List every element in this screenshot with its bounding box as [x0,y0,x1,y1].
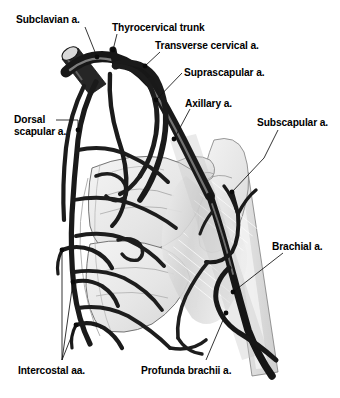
dot-suprascapular [154,98,159,103]
label-suprascapular-artery: Suprascapular a. [184,67,265,79]
label-axillary-artery: Axillary a. [185,98,232,110]
dot-intercostal-3 [74,323,79,328]
dot-profunda-brachii [224,311,229,316]
dot-brachial [231,290,236,295]
dot-transverse-cervical [143,64,148,69]
dot-axillary [172,137,177,142]
label-subclavian-artery: Subclavian a. [16,14,80,26]
leader-transverse-cervical [145,52,160,66]
label-transverse-cervical-artery: Transverse cervical a. [155,40,259,52]
dot-subclavian [95,55,100,60]
label-brachial-artery: Brachial a. [272,241,322,253]
dot-subscapular [230,190,235,195]
label-thyrocervical-trunk: Thyrocervical trunk [112,22,205,34]
anatomy-illustration [0,0,340,398]
label-intercostal-arteries: Intercostal aa. [18,365,85,377]
label-subscapular-artery: Subscapular a. [257,117,328,129]
dot-intercostal-2 [71,280,76,285]
label-dorsal-scapular-artery: Dorsal scapular a. [14,114,66,137]
dot-thyrocervical-trunk [111,48,116,53]
dot-dorsal-scapular [76,128,81,133]
anatomy-figure: Subclavian a. Thyrocervical trunk Transv… [0,0,340,398]
dot-intercostal-1 [60,248,65,253]
label-profunda-brachii-artery: Profunda brachii a. [141,365,231,377]
